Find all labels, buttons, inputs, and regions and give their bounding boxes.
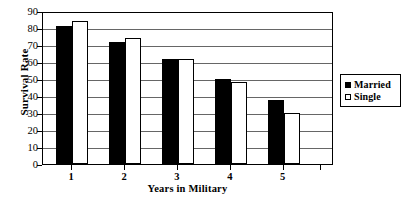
x-tick-label: 2 — [109, 171, 139, 182]
y-tick-mark — [37, 63, 42, 64]
legend-swatch-icon — [345, 82, 351, 88]
bar-group — [162, 12, 194, 164]
x-tick-mark — [124, 165, 125, 170]
bar-married-4 — [215, 79, 231, 164]
bar-group — [268, 12, 300, 164]
y-tick-mark — [37, 46, 42, 47]
y-axis-tick-labels: 0102030405060708090 — [14, 12, 38, 165]
y-tick-label: 60 — [14, 58, 38, 68]
bar-married-5 — [268, 100, 284, 164]
x-tick-mark — [283, 165, 284, 170]
bar-single-3 — [178, 59, 194, 164]
x-tick-mark — [177, 165, 178, 170]
bar-group — [215, 12, 247, 164]
y-tick-mark — [37, 29, 42, 30]
legend-entry-single[interactable]: Single — [345, 91, 397, 102]
y-tick-label: 90 — [14, 7, 38, 17]
y-tick-label: 50 — [14, 75, 38, 85]
y-tick-label: 10 — [14, 143, 38, 153]
y-tick-label: 40 — [14, 92, 38, 102]
x-tick-mark — [71, 165, 72, 170]
bar-single-4 — [231, 82, 247, 164]
bar-single-5 — [284, 113, 300, 164]
y-tick-mark — [37, 148, 42, 149]
bar-married-2 — [109, 42, 125, 164]
y-tick-label: 20 — [14, 126, 38, 136]
x-tick-label: 4 — [215, 171, 245, 182]
x-tick-label: 5 — [268, 171, 298, 182]
y-tick-mark — [37, 114, 42, 115]
y-tick-mark — [37, 80, 42, 81]
legend-label: Married — [354, 79, 391, 90]
bars-layer — [43, 12, 332, 164]
bar-married-3 — [162, 59, 178, 164]
bar-chart-figure: Survival Rate 0102030405060708090 Years … — [0, 0, 405, 198]
legend-entry-married[interactable]: Married — [345, 79, 397, 90]
bar-group — [109, 12, 141, 164]
x-tick-mark — [230, 165, 231, 170]
y-tick-label: 70 — [14, 41, 38, 51]
legend-label: Single — [354, 91, 381, 102]
x-tick-mark — [320, 165, 321, 170]
y-tick-mark — [37, 165, 42, 166]
chart-legend: MarriedSingle — [340, 74, 401, 107]
y-tick-label: 80 — [14, 24, 38, 34]
bar-group — [56, 12, 88, 164]
bar-single-2 — [125, 38, 141, 164]
x-axis-title: Years in Military — [42, 183, 333, 194]
y-tick-mark — [37, 97, 42, 98]
y-tick-mark — [37, 12, 42, 13]
x-tick-label: 1 — [56, 171, 86, 182]
bar-single-1 — [72, 21, 88, 164]
bar-married-1 — [56, 26, 72, 164]
y-tick-label: 0 — [14, 160, 38, 170]
y-tick-label: 30 — [14, 109, 38, 119]
x-tick-label: 3 — [162, 171, 192, 182]
y-tick-mark — [37, 131, 42, 132]
plot-area — [42, 12, 333, 165]
legend-swatch-icon — [345, 94, 351, 100]
